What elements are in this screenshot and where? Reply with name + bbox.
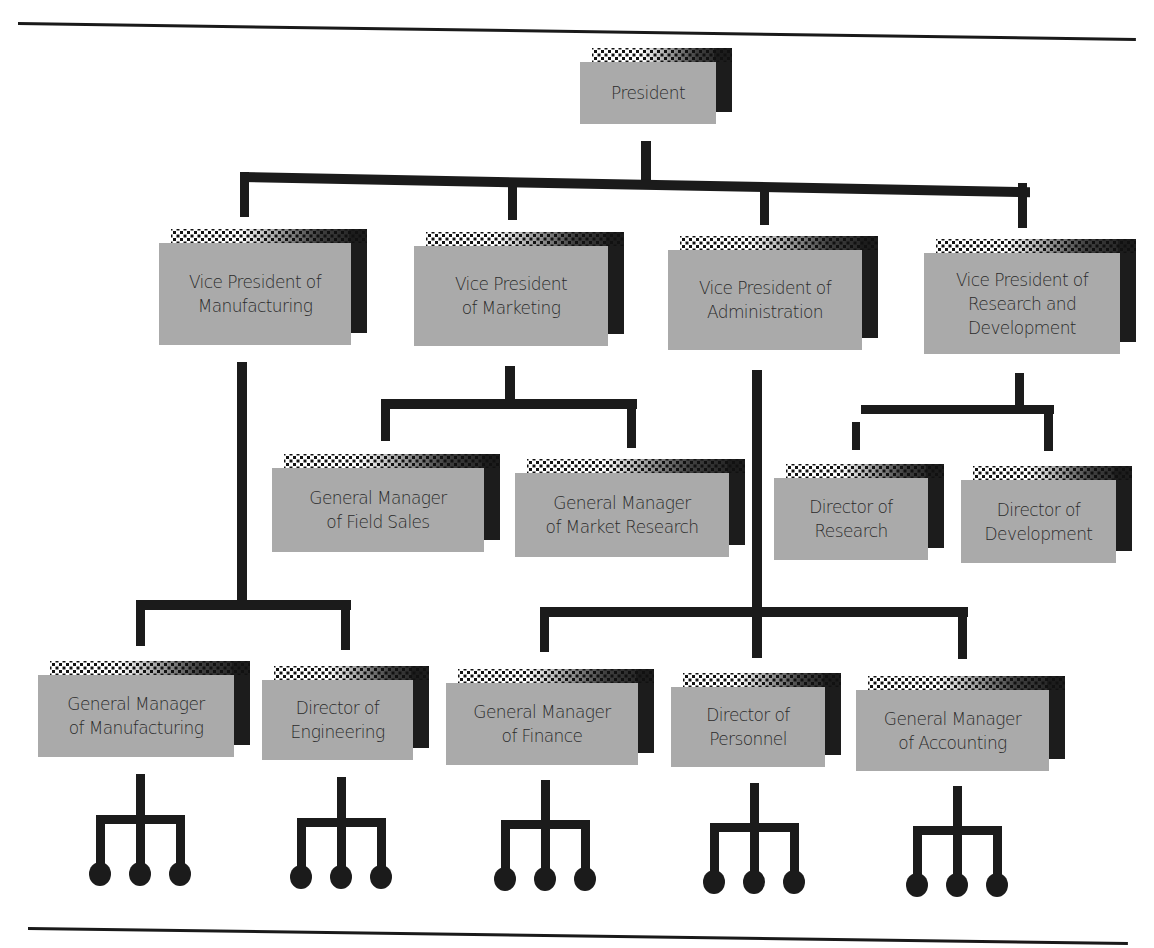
node-label: Vice President of Marketing: [455, 272, 567, 320]
connector-line: [958, 614, 967, 659]
box-halftone: [868, 676, 1065, 690]
box-face: General Manager of Finance: [446, 683, 638, 765]
subordinate-dot-icon: [783, 870, 805, 894]
org-node-gm-field-sales: General Manager of Field Sales: [272, 468, 502, 566]
top-rule: [18, 22, 1136, 41]
node-label: Director of Engineering: [290, 696, 384, 744]
subordinate-dot-icon: [330, 865, 352, 889]
connector-line: [381, 399, 390, 441]
org-node-gm-accounting: General Manager of Accounting: [856, 690, 1067, 785]
box-face: Director of Research: [774, 478, 928, 560]
box-shadow: [860, 236, 878, 338]
branch-drop: [176, 815, 185, 864]
connector-line: [136, 600, 145, 646]
box-halftone: [426, 232, 624, 246]
box-face: Vice President of Marketing: [414, 246, 608, 346]
subordinate-dot-icon: [743, 870, 765, 894]
subordinate-dot-icon: [129, 862, 151, 886]
box-face: General Manager of Market Research: [515, 473, 729, 557]
box-halftone: [171, 229, 367, 243]
node-label: General Manager of Accounting: [884, 707, 1021, 755]
box-shadow: [349, 229, 367, 333]
box-face: Vice President of Manufacturing: [159, 243, 351, 345]
connector-line: [627, 403, 636, 448]
org-node-dir-personnel: Director of Personnel: [671, 687, 843, 781]
org-node-gm-finance: General Manager of Finance: [446, 683, 656, 779]
org-node-dir-development: Director of Development: [961, 480, 1134, 577]
node-label: General Manager of Manufacturing: [67, 692, 204, 740]
org-node-vp-research-development: Vice President of Research and Developme…: [924, 253, 1138, 368]
node-label: Director of Personnel: [706, 703, 789, 751]
org-node-gm-market-research: General Manager of Market Research: [515, 473, 747, 571]
box-face: General Manager of Manufacturing: [38, 675, 234, 757]
branch-drop: [297, 818, 306, 867]
subordinate-dot-icon: [169, 862, 191, 886]
box-halftone: [936, 239, 1136, 253]
org-node-vp-manufacturing: Vice President of Manufacturing: [159, 243, 369, 359]
subordinate-dot-icon: [574, 867, 596, 891]
connector-line: [136, 600, 351, 610]
branch-drop: [501, 820, 510, 869]
branch-bar: [96, 815, 185, 824]
connector-line: [1044, 405, 1053, 451]
box-halftone: [458, 669, 654, 683]
box-face: Director of Development: [961, 480, 1116, 563]
branch-bar: [710, 823, 799, 832]
bottom-rule: [28, 927, 1128, 945]
branch-drop: [581, 820, 590, 869]
connector-line: [861, 405, 1054, 414]
node-label: General Manager of Field Sales: [309, 486, 446, 534]
org-node-dir-research: Director of Research: [774, 478, 946, 574]
node-label: General Manager of Market Research: [546, 491, 699, 539]
node-label: General Manager of Finance: [473, 700, 610, 748]
connector-line: [341, 604, 350, 650]
subordinate-dot-icon: [946, 873, 968, 897]
box-halftone: [527, 459, 745, 473]
box-halftone: [274, 666, 429, 680]
branch-bar: [913, 826, 1002, 835]
box-halftone: [284, 454, 500, 468]
box-halftone: [592, 48, 732, 62]
subordinate-dot-icon: [703, 870, 725, 894]
box-face: General Manager of Accounting: [856, 690, 1049, 771]
box-halftone: [683, 673, 841, 687]
org-node-gm-manufacturing: General Manager of Manufacturing: [38, 675, 252, 771]
box-face: Vice President of Research and Developme…: [924, 253, 1120, 354]
node-label: Vice President of Research and Developme…: [956, 268, 1088, 340]
box-halftone: [786, 464, 944, 478]
box-face: President: [580, 62, 716, 124]
connector-line: [641, 141, 651, 181]
subordinate-dot-icon: [370, 865, 392, 889]
org-chart: PresidentVice President of Manufacturing…: [0, 0, 1154, 948]
box-face: Director of Engineering: [262, 680, 413, 760]
node-label: President: [611, 81, 685, 105]
org-node-president: President: [580, 62, 734, 138]
connector-line: [852, 422, 860, 450]
branch-drop: [913, 826, 922, 875]
node-label: Vice President of Administration: [699, 276, 831, 324]
node-label: Director of Development: [985, 498, 1093, 546]
branch-drop: [710, 823, 719, 872]
box-shadow: [606, 232, 624, 334]
connector-line: [508, 180, 517, 220]
branch-drop: [96, 815, 105, 864]
branch-drop: [790, 823, 799, 872]
connector-line: [237, 362, 247, 607]
connector-line: [760, 185, 769, 225]
box-halftone: [973, 466, 1132, 480]
box-face: Director of Personnel: [671, 687, 825, 767]
box-shadow: [1118, 239, 1136, 342]
subordinate-dot-icon: [986, 873, 1008, 897]
branch-bar: [297, 818, 386, 827]
box-face: Vice President of Administration: [668, 250, 862, 350]
connector-line: [1018, 183, 1027, 228]
org-node-vp-administration: Vice President of Administration: [668, 250, 880, 364]
box-halftone: [50, 661, 250, 675]
box-halftone: [680, 236, 878, 250]
subordinate-dot-icon: [494, 867, 516, 891]
node-label: Director of Research: [809, 495, 892, 543]
subordinate-dot-icon: [290, 865, 312, 889]
branch-drop: [377, 818, 386, 867]
connector-line: [540, 607, 549, 652]
branch-drop: [993, 826, 1002, 875]
